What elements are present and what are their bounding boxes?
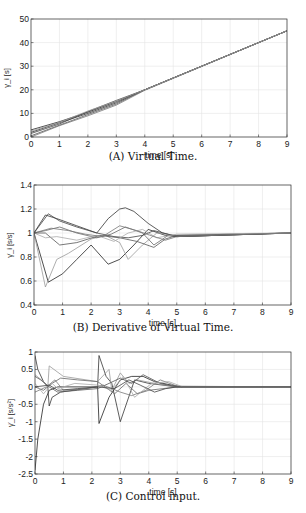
svg-text:0: 0 bbox=[28, 382, 33, 392]
svg-text:2: 2 bbox=[89, 307, 94, 317]
svg-text:6: 6 bbox=[203, 476, 208, 486]
svg-text:5: 5 bbox=[175, 476, 180, 486]
svg-text:9: 9 bbox=[285, 139, 290, 149]
svg-text:4: 4 bbox=[142, 139, 147, 149]
chart-c: 0123456789-2.5-2-1.5-1-0.500.51time [s]γ… bbox=[6, 347, 294, 497]
chart-a: 012345678901020304050time [s]γ_i [s] bbox=[2, 14, 290, 160]
svg-text:20: 20 bbox=[20, 85, 30, 95]
y-axis-label: γ̈_i [s/s²] bbox=[6, 399, 15, 427]
svg-text:0.5: 0.5 bbox=[21, 364, 33, 374]
svg-text:8: 8 bbox=[260, 307, 265, 317]
svg-text:7: 7 bbox=[228, 139, 233, 149]
svg-text:8: 8 bbox=[260, 476, 265, 486]
svg-text:8: 8 bbox=[256, 139, 261, 149]
svg-text:-2: -2 bbox=[25, 452, 33, 462]
svg-text:9: 9 bbox=[289, 476, 294, 486]
svg-text:3: 3 bbox=[117, 307, 122, 317]
svg-text:7: 7 bbox=[232, 476, 237, 486]
svg-text:4: 4 bbox=[146, 476, 151, 486]
svg-text:40: 40 bbox=[20, 38, 30, 48]
y-axis-label: γ̇_i [s/s] bbox=[5, 232, 14, 257]
svg-text:1.4: 1.4 bbox=[20, 180, 32, 190]
svg-text:2: 2 bbox=[86, 139, 91, 149]
svg-text:-0.5: -0.5 bbox=[18, 399, 33, 409]
svg-text:1: 1 bbox=[28, 347, 33, 357]
svg-text:1: 1 bbox=[27, 228, 32, 238]
svg-text:50: 50 bbox=[20, 14, 30, 24]
svg-text:1.2: 1.2 bbox=[20, 204, 32, 214]
svg-text:10: 10 bbox=[20, 108, 30, 118]
svg-text:30: 30 bbox=[20, 61, 30, 71]
svg-text:1: 1 bbox=[60, 307, 65, 317]
svg-text:1: 1 bbox=[61, 476, 66, 486]
svg-text:1: 1 bbox=[57, 139, 62, 149]
svg-text:0.8: 0.8 bbox=[20, 252, 32, 262]
svg-text:6: 6 bbox=[203, 307, 208, 317]
svg-text:-1: -1 bbox=[25, 417, 33, 427]
svg-text:0.6: 0.6 bbox=[20, 276, 32, 286]
caption-b: (B) Derivative of Virtual Time. bbox=[0, 321, 306, 333]
y-axis-label: γ_i [s] bbox=[2, 68, 11, 88]
svg-text:0: 0 bbox=[29, 139, 34, 149]
svg-text:-2.5: -2.5 bbox=[18, 469, 33, 479]
svg-text:4: 4 bbox=[146, 307, 151, 317]
svg-text:7: 7 bbox=[232, 307, 237, 317]
svg-text:2: 2 bbox=[90, 476, 95, 486]
caption-c: (C) Control input. bbox=[0, 490, 306, 502]
svg-text:5: 5 bbox=[171, 139, 176, 149]
svg-text:3: 3 bbox=[118, 476, 123, 486]
svg-text:3: 3 bbox=[114, 139, 119, 149]
chart-b: 01234567890.40.60.811.21.4time [s]γ̇_i [… bbox=[5, 180, 294, 328]
svg-text:6: 6 bbox=[199, 139, 204, 149]
svg-text:0: 0 bbox=[33, 476, 38, 486]
svg-text:9: 9 bbox=[289, 307, 294, 317]
svg-text:0: 0 bbox=[32, 307, 37, 317]
figure-canvas: 012345678901020304050time [s]γ_i [s]0123… bbox=[0, 0, 306, 513]
svg-text:5: 5 bbox=[174, 307, 179, 317]
caption-a: (A) Virtual Time. bbox=[0, 150, 306, 162]
svg-text:-1.5: -1.5 bbox=[18, 434, 33, 444]
svg-text:0: 0 bbox=[24, 132, 29, 142]
svg-text:0.4: 0.4 bbox=[20, 300, 32, 310]
